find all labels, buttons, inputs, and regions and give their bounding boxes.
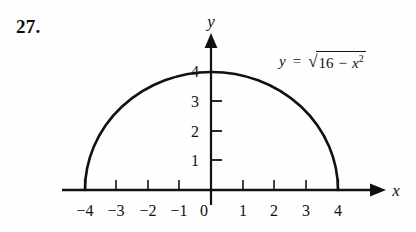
x-tick-label--2: −2 bbox=[139, 202, 156, 219]
x-tick-label--3: −3 bbox=[107, 202, 124, 219]
radicand: 16−x2 bbox=[316, 51, 365, 72]
equation-annotation: y = √ 16−x2 bbox=[279, 52, 366, 73]
radicand-constant: 16 bbox=[318, 55, 333, 71]
y-tick-label-3: 3 bbox=[191, 93, 199, 110]
x-tick-label-3: 3 bbox=[302, 202, 310, 219]
x-axis-label: x bbox=[391, 181, 400, 200]
radicand-variable: x bbox=[352, 55, 359, 71]
figure-container: 27. −4 −3 −2 bbox=[0, 0, 416, 232]
x-tick-label-4: 4 bbox=[334, 202, 342, 219]
coordinate-plot: −4 −3 −2 −1 0 1 2 3 4 1 2 3 4 y x bbox=[0, 0, 416, 232]
y-tick-label-1: 1 bbox=[191, 152, 199, 169]
x-axis-arrowhead bbox=[370, 184, 386, 197]
y-axis-arrowhead bbox=[205, 33, 218, 48]
x-tick-label-1: 1 bbox=[239, 202, 247, 219]
radical-expression: √ 16−x2 bbox=[308, 52, 365, 73]
y-tick-label-2: 2 bbox=[191, 123, 199, 140]
x-tick-label--4: −4 bbox=[76, 202, 93, 219]
equation-lhs: y bbox=[279, 53, 286, 70]
radicand-exponent: 2 bbox=[359, 53, 364, 64]
y-axis-label: y bbox=[205, 12, 215, 31]
radicand-operator: − bbox=[338, 55, 346, 71]
x-tick-label-0: 0 bbox=[200, 202, 208, 219]
x-tick-label--1: −1 bbox=[170, 202, 187, 219]
x-tick-label-2: 2 bbox=[270, 202, 278, 219]
equation-relation: = bbox=[293, 53, 301, 70]
y-axis-ticks bbox=[211, 101, 222, 160]
y-tick-label-4: 4 bbox=[191, 63, 199, 80]
